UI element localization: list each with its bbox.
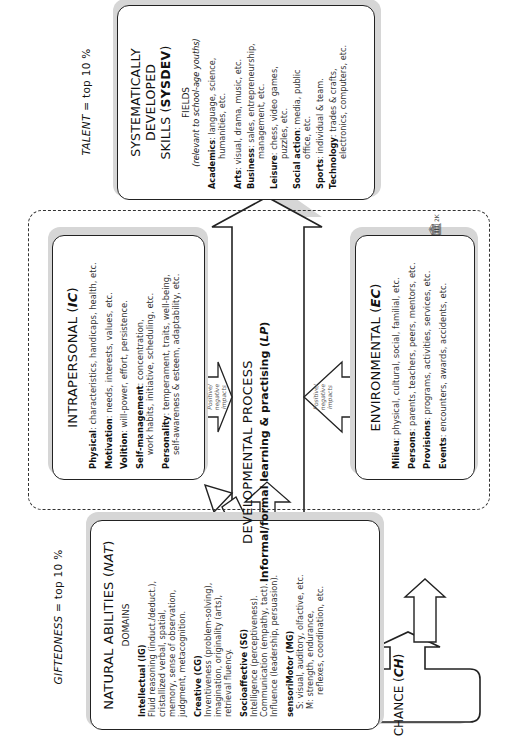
ec-provisions: Provisions: programs, activities, servic… [422, 246, 433, 469]
talent-caption: TALENT = top 10 % [80, 7, 92, 197]
field-arts: Arts: visual, drama, music, etc. [233, 16, 243, 189]
field-academics: Academics: language, science,humanities,… [207, 16, 227, 189]
giftedness-caption: GIFTEDNESS = top 10 % [52, 517, 64, 717]
chance-label: CHANCE (CH) [392, 645, 406, 737]
field-technology: Technology: trades & crafts,electronics,… [328, 16, 348, 189]
chance-label-wrap: CHANCE (CH) [352, 671, 452, 719]
ec-persons: Persons: parents, teachers, peers, mento… [407, 246, 418, 469]
ec-impact-label: Positive/ negative impacts [312, 372, 333, 422]
field-social-action: Social action: media, publicoffice, etc. [292, 16, 312, 189]
logo-glyph-icon: 🏛︎ [428, 222, 442, 237]
logo-2k: 🏛︎2K [428, 214, 442, 237]
field-business: Business: sales, entrepreneurship,manage… [246, 16, 266, 189]
sysdev-title: SYSTEMATICALLY DEVELOPED SKILLS (SYSDEV) [128, 16, 173, 189]
developmental-process-label: DEVELOPMENTAL PROCESS Informal/formal le… [240, 227, 271, 677]
sysdev-fields-heading: FIELDS [181, 16, 191, 189]
ic-physical: Physical: characteristics, handicaps, he… [88, 246, 99, 469]
environmental-box: ENVIRONMENTAL (EC) Milieu: physical, cul… [355, 235, 475, 480]
ic-self-management: Self-management: concentration, work hab… [135, 246, 156, 469]
field-sports: Sports: individual & team. [315, 16, 325, 189]
ec-events: Events: encounters, awards, accidents, e… [438, 246, 449, 469]
nat-title: NATURAL ABILITIES (NAT) [101, 533, 116, 717]
nat-domains-heading: DOMAINS [121, 533, 131, 717]
ic-impact-label: Positive/ negative impacts [206, 372, 227, 422]
ec-milieu: Milieu: physical, cultural, social, fami… [391, 246, 402, 469]
ic-personality: Personality: temperament, traits, well-b… [161, 246, 182, 469]
natural-abilities-box: NATURAL ABILITIES (NAT) DOMAINS Intellec… [90, 520, 380, 730]
ic-title: INTRAPERSONAL (IC) [65, 246, 80, 469]
ic-motivation: Motivation: needs, interests, values, et… [104, 246, 115, 469]
dmgt-diagram: CATALYSTS GIFTEDNESS = top 10 % NATURAL … [0, 0, 505, 737]
ec-title: ENVIRONMENTAL (EC) [368, 246, 383, 469]
domain-sensorimotor: sensoriMotor (MG) S: visual, auditory, o… [285, 533, 325, 717]
sysdev-box: SYSTEMATICALLY DEVELOPED SKILLS (SYSDEV)… [117, 5, 375, 200]
intrapersonal-box: INTRAPERSONAL (IC) Physical: characteris… [52, 235, 205, 480]
sysdev-fields-note: (relevant to school-age youths) [191, 16, 201, 189]
domain-intellectual: Intellectual (IG) Fluid reasoning (induc… [137, 533, 187, 717]
field-leisure: Leisure: chess, video games,puzzles, etc… [269, 16, 289, 189]
domain-creative: Creative (CG) Inventiveness (problem-sol… [193, 533, 233, 717]
ic-volition: Volition: will-power, effort, persistenc… [119, 246, 130, 469]
